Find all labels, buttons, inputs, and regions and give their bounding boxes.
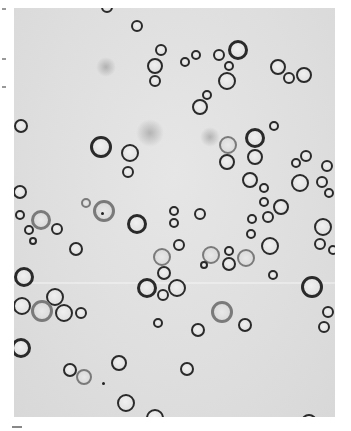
cell [90, 136, 112, 158]
debris-dot [101, 212, 104, 215]
cell [222, 257, 236, 271]
cell [238, 318, 252, 332]
cell [191, 323, 205, 337]
cell [191, 50, 201, 60]
cell [273, 199, 289, 215]
cell [219, 136, 237, 154]
cell [31, 300, 53, 322]
cell [283, 72, 295, 84]
cell [15, 210, 25, 220]
figure-label-fragment [12, 426, 22, 428]
cell [268, 270, 278, 280]
cell [111, 355, 127, 371]
cell [121, 144, 139, 162]
margin-mark [2, 8, 6, 10]
cell [291, 158, 301, 168]
cell [218, 72, 236, 90]
debris-dot [102, 382, 105, 385]
cell [81, 198, 91, 208]
cell [153, 318, 163, 328]
cell [246, 229, 256, 239]
cell [51, 223, 63, 235]
cell [157, 289, 169, 301]
smudge [200, 127, 220, 147]
cell [14, 267, 34, 287]
cell [14, 119, 28, 133]
cell [301, 414, 317, 417]
cell [194, 208, 206, 220]
cell [63, 363, 77, 377]
cell [300, 150, 312, 162]
cell [14, 297, 31, 315]
microscope-photo [14, 8, 335, 417]
cell [247, 149, 263, 165]
cell [247, 214, 257, 224]
cell [93, 200, 115, 222]
cell [122, 166, 134, 178]
cell [237, 249, 255, 267]
cell [200, 261, 208, 269]
cell [228, 40, 248, 60]
cell [137, 278, 157, 298]
cell [55, 304, 73, 322]
cell [173, 239, 185, 251]
cell [324, 188, 334, 198]
cell [316, 176, 328, 188]
cell [291, 174, 309, 192]
cell [213, 49, 225, 61]
cell [245, 128, 265, 148]
cell [314, 238, 326, 250]
cell [169, 206, 179, 216]
cell [211, 301, 233, 323]
cell [127, 214, 147, 234]
cell [29, 237, 37, 245]
cell [14, 338, 31, 358]
cell [261, 237, 279, 255]
smudge [136, 119, 164, 147]
cell [314, 218, 332, 236]
cell [259, 183, 269, 193]
cell [147, 58, 163, 74]
cell [219, 154, 235, 170]
cell [224, 246, 234, 256]
cell [269, 121, 279, 131]
cell [157, 266, 171, 280]
cell [117, 394, 135, 412]
cell [131, 20, 143, 32]
cell [322, 306, 334, 318]
cell [153, 248, 171, 266]
cell [180, 57, 190, 67]
cell [301, 276, 323, 298]
cell [146, 409, 164, 417]
cell [259, 197, 269, 207]
cell [321, 160, 333, 172]
cell [270, 59, 286, 75]
cell [202, 90, 212, 100]
cell [24, 225, 34, 235]
cell [31, 210, 51, 230]
cell [296, 67, 312, 83]
cell [242, 172, 258, 188]
cell [192, 99, 208, 115]
cell [168, 279, 186, 297]
cell [101, 8, 113, 13]
cell [14, 185, 27, 199]
cell [155, 44, 167, 56]
cell [328, 245, 335, 255]
cell [169, 218, 179, 228]
cell [318, 321, 330, 333]
cell [180, 362, 194, 376]
cell [262, 211, 274, 223]
cell [75, 307, 87, 319]
cell [69, 242, 83, 256]
cell [224, 61, 234, 71]
margin-mark [2, 86, 6, 88]
cell [149, 75, 161, 87]
margin-mark [2, 58, 6, 60]
smudge [96, 57, 116, 77]
cell [76, 369, 92, 385]
